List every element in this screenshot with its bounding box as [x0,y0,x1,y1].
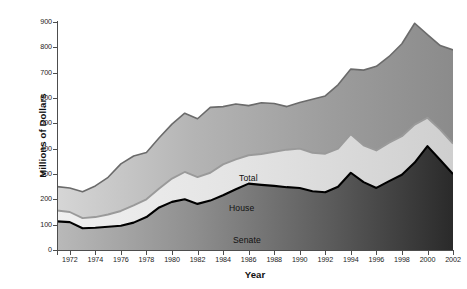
y-tick [53,149,57,150]
y-tick-label: 500 [30,119,52,126]
y-tick-label: 700 [30,69,52,76]
y-tick [53,98,57,99]
y-tick [53,73,57,74]
y-tick-label: 100 [30,221,52,228]
series-label-house: House [229,203,254,213]
chart-figure: Millions of Dollars [0,0,467,289]
stacked-area-chart [57,22,453,250]
series-label-total: Total [239,173,258,183]
y-tick [53,225,57,226]
series-label-senate: Senate [233,235,261,245]
plot-area: Total House Senate [57,22,453,250]
y-tick [53,22,57,23]
y-tick [53,47,57,48]
y-tick [53,123,57,124]
y-tick-label: 900 [30,18,52,25]
y-axis-title: Millions of Dollars [37,56,48,216]
y-axis-title-holder: Millions of Dollars [10,20,30,250]
y-tick-label: 400 [30,145,52,152]
y-tick-label: 200 [30,195,52,202]
y-tick-label: 300 [30,170,52,177]
x-tick-label: 2002 [436,256,467,264]
x-axis-title: Year [57,269,453,280]
y-tick [53,199,57,200]
y-axis-line [57,21,58,251]
y-tick-label: 600 [30,94,52,101]
x-tick [57,251,58,255]
y-tick [53,174,57,175]
y-tick-label: 800 [30,43,52,50]
x-axis-line [56,250,454,251]
y-tick-label: 0 [30,246,52,253]
